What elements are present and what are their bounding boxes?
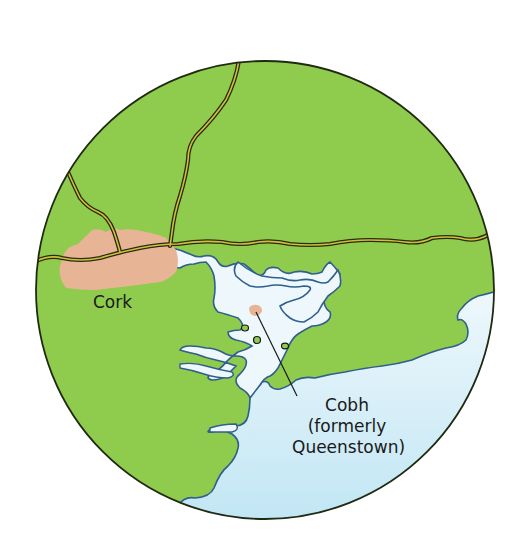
label-cobh-name: Cobh — [292, 395, 402, 416]
label-cobh: Cobh (formerly Queenstown) — [292, 395, 402, 458]
island-2 — [254, 337, 261, 344]
label-cobh-formerly: (formerly — [292, 416, 402, 437]
label-cobh-queenstown: Queenstown) — [292, 437, 402, 458]
cork-harbour-map — [0, 0, 512, 533]
island-3 — [282, 343, 289, 349]
label-cork: Cork — [93, 292, 132, 313]
island-1 — [242, 325, 249, 331]
